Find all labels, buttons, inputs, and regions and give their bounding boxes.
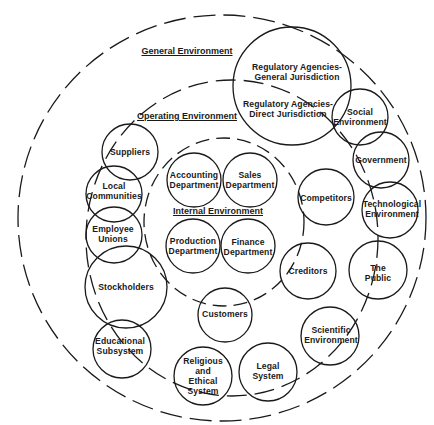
production-department-label: Production Department xyxy=(169,236,218,256)
internal-environment-boundary xyxy=(144,138,304,306)
social-environment-label: Social Environment xyxy=(333,107,387,127)
suppliers-label: Suppliers xyxy=(110,147,150,157)
customers-label: Customers xyxy=(202,309,248,319)
scientific-environment-label: Scientific Environment xyxy=(304,325,358,345)
employee-unions-label: Employee Unions xyxy=(92,224,133,244)
regulatory-general-label: Regulatory Agencies- General Jurisdictio… xyxy=(252,62,342,82)
stockholders-label: Stockholders xyxy=(98,282,154,292)
sales-department-label: Sales Department xyxy=(226,170,275,190)
technological-environment-label: Technological Environment xyxy=(363,199,421,219)
regulatory-direct-label: Regulatory Agencies- Direct Jurisdiction xyxy=(243,99,333,119)
the-public-label: The Public xyxy=(365,263,391,283)
general-environment-label: General Environment xyxy=(141,46,232,56)
operating-environment-label: Operating Environment xyxy=(137,111,237,121)
religious-ethical-system-label: Religious and Ethical System xyxy=(183,356,223,396)
competitors-label: Competitors xyxy=(300,193,352,203)
internal-environment-label: Internal Environment xyxy=(173,206,263,216)
local-communities-label: Local Communities xyxy=(86,181,142,201)
finance-department-label: Finance Department xyxy=(224,237,273,257)
educational-subsystem-label: Educational Subsystem xyxy=(95,336,145,356)
creditors-label: Creditors xyxy=(288,266,327,276)
government-label: Government xyxy=(355,155,407,165)
legal-system-label: Legal System xyxy=(252,361,283,381)
accounting-department-label: Accounting Department xyxy=(170,170,219,190)
